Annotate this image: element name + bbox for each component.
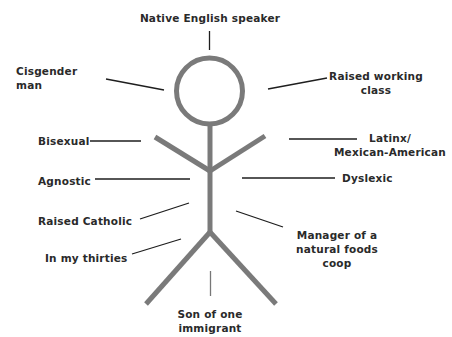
label-native-english-speaker: Native English speaker [139, 11, 281, 25]
label-son-of-one-immigrant: Son of one immigrant [145, 307, 275, 335]
leader-line-manager [236, 211, 283, 227]
label-manager-natural-foods-coop: Manager of a natural foods coop [290, 228, 384, 270]
label-cisgender-man: Cisgender man [16, 64, 106, 92]
label-raised-working-class: Raised working class [326, 69, 426, 97]
leader-line-working-class [268, 78, 327, 89]
label-raised-catholic: Raised Catholic [38, 214, 138, 228]
label-bisexual: Bisexual [38, 134, 98, 148]
stick-figure [146, 58, 276, 304]
label-latinx-mexican-american: Latinx/ Mexican-American [332, 131, 448, 159]
leader-line-catholic [140, 203, 189, 219]
label-agnostic: Agnostic [38, 174, 98, 188]
figure-right-leg [209, 231, 276, 304]
leader-line-cisgender [106, 79, 164, 90]
label-dyslexic: Dyslexic [342, 171, 402, 185]
figure-left-leg [146, 231, 211, 304]
figure-head [177, 58, 243, 124]
figure-right-arm [210, 136, 265, 171]
figure-left-arm [155, 137, 210, 171]
label-in-my-thirties: In my thirties [45, 251, 135, 265]
leader-line-thirties [132, 239, 181, 254]
stick-figure-diagram [0, 0, 452, 337]
